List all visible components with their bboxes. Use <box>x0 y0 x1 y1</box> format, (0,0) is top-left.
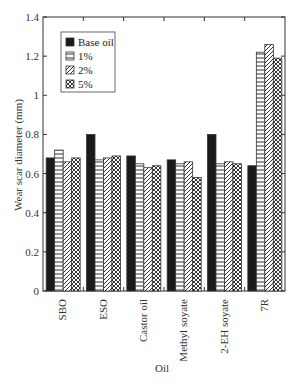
bar-methyl-soyate-base-oil <box>167 160 176 291</box>
x-tick-label: Castor oil <box>137 299 149 342</box>
legend: Base oil1%2%5% <box>61 32 115 92</box>
bar-7r-1- <box>256 52 265 291</box>
bar-chart: 00.20.40.60.811.21.4 SBOESOCastor oilMet… <box>0 0 302 387</box>
bar-castor-oil-1- <box>135 164 144 291</box>
x-tick-label: 7R <box>258 298 270 312</box>
bar-7r-5- <box>273 58 282 291</box>
bar-methyl-soyate-2- <box>184 162 193 291</box>
x-tick-label: ESO <box>97 299 109 320</box>
y-tick-label: 0.2 <box>25 246 39 258</box>
y-tick-label: 0.4 <box>25 207 39 219</box>
bar-eso-2- <box>104 158 113 291</box>
x-tick-label: SBO <box>56 299 68 320</box>
legend-label: Base oil <box>78 36 114 48</box>
bar-sbo-1- <box>55 150 64 291</box>
bar-7r-base-oil <box>248 166 256 291</box>
y-tick-label: 0 <box>34 285 40 297</box>
y-tick-label: 1.2 <box>25 50 39 62</box>
legend-label: 5% <box>78 78 93 90</box>
bar-7r-2- <box>265 44 274 291</box>
x-tick-label: Methyl soyate <box>177 299 189 362</box>
bar-methyl-soyate-1- <box>176 164 185 291</box>
x-axis-labels: SBOESOCastor oilMethyl soyate2-EH soyate… <box>56 298 270 361</box>
bar-2-eh-soyate-2- <box>225 162 234 291</box>
bar-eso-1- <box>95 160 104 291</box>
y-tick-label: 1 <box>34 89 40 101</box>
legend-label: 1% <box>78 50 93 62</box>
y-tick-label: 1.4 <box>25 11 39 23</box>
legend-swatch <box>66 52 74 60</box>
bar-castor-oil-5- <box>152 166 161 291</box>
bar-2-eh-soyate-base-oil <box>208 134 217 291</box>
bar-sbo-2- <box>63 162 72 291</box>
bar-sbo-base-oil <box>46 158 55 291</box>
y-tick-label: 0.6 <box>25 168 39 180</box>
y-axis-title: Wear scar diameter (mm) <box>12 99 25 211</box>
legend-label: 2% <box>78 64 93 76</box>
bar-2-eh-soyate-1- <box>216 164 225 291</box>
y-tick-label: 0.8 <box>25 128 39 140</box>
legend-swatch <box>66 38 74 46</box>
bar-castor-oil-2- <box>144 168 153 291</box>
legend-swatch <box>66 66 74 74</box>
bar-castor-oil-base-oil <box>127 156 136 291</box>
bar-sbo-5- <box>72 158 81 291</box>
x-axis-title: Oil <box>155 362 169 374</box>
bar-2-eh-soyate-5- <box>233 164 242 291</box>
legend-swatch <box>66 80 74 88</box>
bar-eso-5- <box>112 156 121 291</box>
x-tick-label: 2-EH soyate <box>218 299 230 354</box>
bar-methyl-soyate-5- <box>193 177 202 291</box>
bar-eso-base-oil <box>87 134 96 291</box>
